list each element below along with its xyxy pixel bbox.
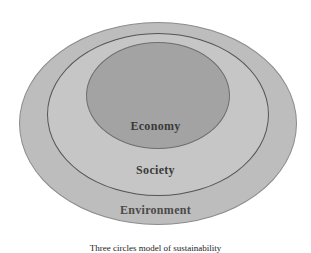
environment-label: Environment [0,203,311,218]
figure-caption: Three circles model of sustainability [0,243,311,253]
economy-label: Economy [0,119,311,134]
society-label: Society [0,163,311,178]
